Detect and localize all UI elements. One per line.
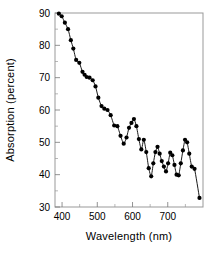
data-point — [91, 78, 95, 82]
data-point — [132, 117, 136, 121]
data-point — [149, 174, 153, 178]
data-point — [151, 161, 155, 165]
y-tick-label: 80 — [39, 40, 51, 51]
x-tick-label: 600 — [124, 211, 141, 222]
data-point — [69, 38, 73, 42]
data-point — [71, 46, 75, 50]
data-point — [162, 164, 166, 168]
data-point — [197, 196, 201, 200]
data-point — [185, 140, 189, 144]
data-point — [139, 147, 143, 151]
data-point — [74, 58, 78, 62]
data-point — [153, 150, 157, 154]
data-point — [155, 145, 159, 149]
absorption-spectrum-chart: 400500600700 30405060708090 Wavelength (… — [0, 0, 221, 259]
data-point — [181, 148, 185, 152]
data-point — [122, 142, 126, 146]
y-tick-label: 40 — [39, 169, 51, 180]
data-point — [118, 134, 122, 138]
data-point — [109, 113, 113, 117]
data-point — [158, 152, 162, 156]
data-point — [115, 124, 119, 128]
x-axis-ticks — [62, 202, 185, 207]
x-tick-label: 700 — [159, 211, 176, 222]
data-point — [129, 121, 133, 125]
data-point — [63, 21, 67, 25]
plot-frame — [55, 13, 203, 207]
data-point — [179, 161, 183, 165]
y-tick-label: 60 — [39, 105, 51, 116]
data-point — [124, 135, 128, 139]
y-tick-label: 30 — [39, 202, 51, 213]
data-point — [77, 61, 81, 65]
y-tick-label: 70 — [39, 72, 51, 83]
data-point — [93, 84, 97, 88]
data-point — [166, 161, 170, 165]
data-point — [96, 96, 100, 100]
x-axis-tick-labels: 400500600700 — [54, 211, 177, 222]
data-point — [144, 150, 148, 154]
y-tick-label: 50 — [39, 137, 51, 148]
x-axis-title: Wavelength (nm) — [86, 230, 172, 242]
data-point — [177, 173, 181, 177]
data-point — [66, 27, 70, 31]
data-point — [187, 152, 191, 156]
x-tick-label: 400 — [54, 211, 71, 222]
data-point — [105, 108, 109, 112]
data-point — [60, 14, 64, 18]
figure-container: 400500600700 30405060708090 Wavelength (… — [0, 0, 221, 259]
y-axis-ticks — [55, 13, 60, 207]
data-point — [147, 166, 151, 170]
data-point — [164, 169, 168, 173]
data-point — [127, 126, 131, 130]
y-axis-title: Absorption (percent) — [4, 58, 16, 162]
y-tick-label: 90 — [39, 8, 51, 19]
data-point — [134, 124, 138, 128]
data-point — [172, 163, 176, 167]
data-point — [137, 137, 141, 141]
y-axis-tick-labels: 30405060708090 — [39, 8, 51, 213]
data-point — [192, 167, 196, 171]
data-point — [142, 138, 146, 142]
x-tick-label: 500 — [89, 211, 106, 222]
data-point — [160, 159, 164, 163]
data-series-line — [59, 14, 200, 198]
data-point — [170, 153, 174, 157]
